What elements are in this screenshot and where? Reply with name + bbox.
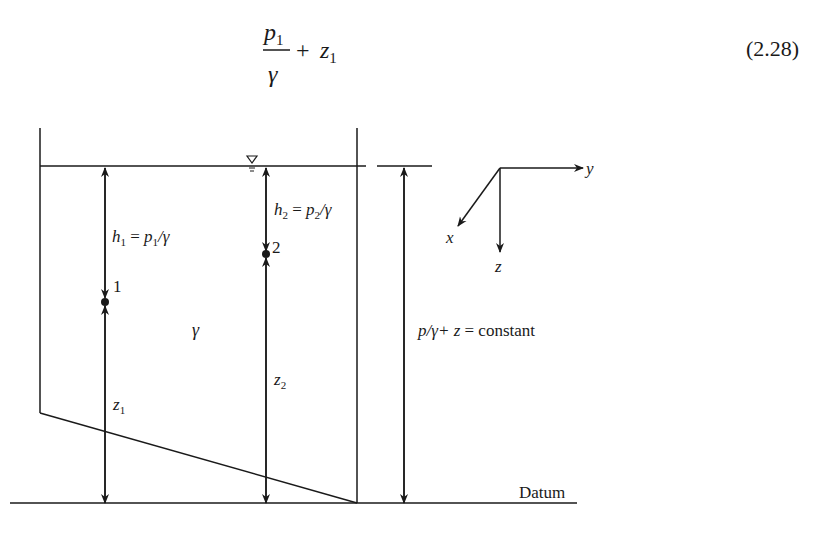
z-axis-label: z bbox=[494, 257, 502, 276]
eq-denominator: γ bbox=[268, 61, 278, 87]
z2-label: z2 bbox=[273, 370, 286, 391]
sloped-bottom bbox=[40, 413, 357, 503]
free-surface-icon bbox=[247, 156, 257, 171]
constant-head-label: p/γ+ z = constant bbox=[417, 321, 535, 340]
point-1-marker bbox=[101, 298, 109, 306]
y-axis-label: y bbox=[584, 159, 594, 178]
point-1-label: 1 bbox=[113, 277, 122, 296]
h2-label: h2 = p2/γ bbox=[274, 200, 333, 221]
hydrostatic-diagram: p1 γ + z1 (2.28) bbox=[0, 0, 825, 533]
eq-term: z1 bbox=[319, 37, 337, 66]
equation: p1 γ + z1 (2.28) bbox=[262, 19, 799, 87]
eq-plus: + bbox=[296, 37, 310, 63]
x-axis-arrow bbox=[458, 168, 500, 226]
point-2-marker bbox=[262, 250, 270, 258]
fluid-specific-weight-label: γ bbox=[192, 320, 200, 340]
datum-label: Datum bbox=[519, 483, 565, 502]
equation-number: (2.28) bbox=[746, 36, 799, 61]
x-axis-label: x bbox=[445, 228, 454, 247]
eq-numerator: p1 bbox=[262, 19, 284, 48]
h1-label: h1 = p1/γ bbox=[112, 227, 171, 248]
point-2-label: 2 bbox=[272, 238, 281, 257]
z1-label: z1 bbox=[112, 395, 125, 416]
